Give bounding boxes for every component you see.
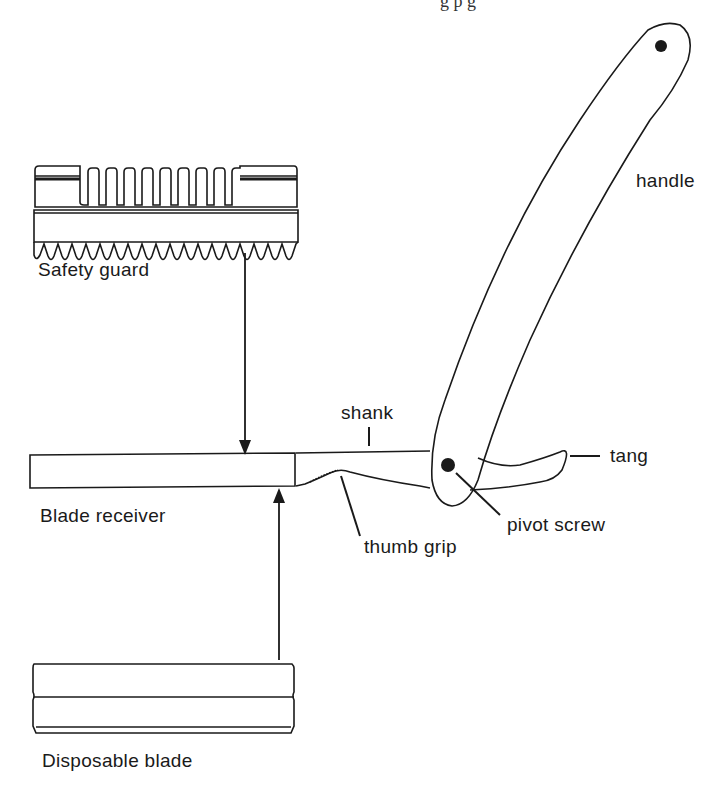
label-blade-receiver: Blade receiver	[40, 505, 166, 527]
shank-drawing	[296, 451, 430, 488]
handle-drawing	[432, 23, 690, 506]
disposable-blade-drawing	[33, 664, 294, 733]
handle-rivet-icon	[655, 40, 667, 52]
label-pivot-screw: pivot screw	[507, 514, 605, 536]
thumb-grip-leader-line	[341, 476, 360, 536]
label-thumb-grip: thumb grip	[364, 536, 457, 558]
label-handle: handle	[636, 170, 695, 192]
razor-diagram	[0, 0, 725, 801]
label-safety-guard: Safety guard	[38, 259, 149, 281]
arrow-up-icon	[273, 488, 285, 660]
label-tang: tang	[610, 445, 648, 467]
safety-guard-drawing	[34, 166, 298, 260]
blade-receiver-drawing	[30, 453, 295, 488]
arrow-down-icon	[239, 253, 251, 455]
label-disposable-blade: Disposable blade	[42, 750, 193, 772]
pivot-screw-icon	[441, 458, 455, 472]
label-shank: shank	[341, 402, 393, 424]
